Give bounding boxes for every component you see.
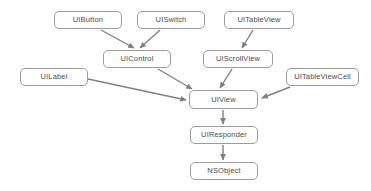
node-label: UITableView: [237, 16, 280, 24]
node-label: UIButton: [73, 16, 103, 24]
node-uiswitch[interactable]: UISwitch: [137, 11, 205, 29]
node-uiview[interactable]: UIView: [189, 90, 258, 109]
node-uicontrol[interactable]: UIControl: [103, 50, 171, 68]
node-uibutton[interactable]: UIButton: [54, 11, 122, 29]
node-label: NSObject: [207, 167, 240, 175]
node-nsobject[interactable]: NSObject: [190, 162, 258, 180]
node-label: UITableViewCell: [294, 73, 351, 81]
node-label: UIView: [211, 96, 236, 104]
node-uilabel[interactable]: UILabel: [20, 68, 88, 86]
node-uiresponder[interactable]: UIResponder: [190, 126, 258, 144]
node-label: UIControl: [120, 55, 153, 63]
edge-uitableviewcell-to-uiview: [262, 87, 290, 98]
node-label: UILabel: [41, 73, 68, 81]
edge-uitableview-to-uiscrollview: [242, 30, 253, 48]
edge-uiscrollview-to-uiview: [220, 69, 232, 88]
edge-uicontrol-to-uiview: [158, 69, 192, 89]
node-uiscrollview[interactable]: UIScrollView: [203, 50, 273, 68]
node-label: UIResponder: [201, 131, 247, 139]
edge-uiswitch-to-uicontrol: [140, 30, 160, 48]
node-label: UISwitch: [156, 16, 187, 24]
node-uitableviewcell[interactable]: UITableViewCell: [286, 68, 359, 86]
node-label: UIScrollView: [216, 55, 260, 63]
node-uitableview[interactable]: UITableView: [224, 11, 294, 29]
class-hierarchy-diagram: UIButton UISwitch UITableView UIControl …: [0, 0, 371, 191]
edge-uilabel-to-uiview: [88, 79, 186, 100]
edge-uibutton-to-uicontrol: [101, 30, 134, 48]
